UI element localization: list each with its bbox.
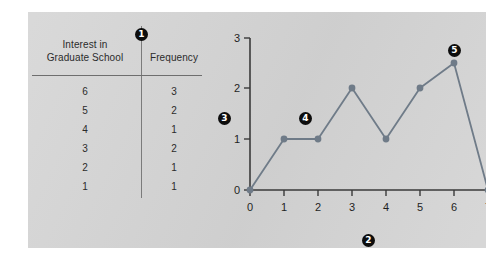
table-row: 6 3	[28, 82, 206, 101]
cell-frequency: 2	[144, 101, 204, 120]
data-point	[485, 187, 486, 194]
x-tick-label: 5	[417, 201, 423, 213]
y-tick-label: 0	[234, 184, 240, 196]
data-line	[250, 63, 486, 190]
table-row: 2 1	[28, 158, 206, 177]
callout-marker-4: 4	[299, 112, 312, 125]
data-point	[247, 187, 254, 194]
callout-marker-5: 5	[448, 44, 461, 57]
table-row: 3 2	[28, 139, 206, 158]
chart-axes	[250, 38, 486, 190]
cell-interest: 3	[30, 139, 140, 158]
data-point	[315, 136, 322, 143]
cell-frequency: 1	[144, 158, 204, 177]
figure-panel: Interest in Graduate School Frequency 6 …	[28, 12, 486, 248]
x-axis-tick-marks	[250, 190, 486, 196]
line-chart: 3 2 1 0 0 1 2 3 4 5 6 7	[206, 12, 486, 248]
callout-marker-1: 1	[135, 28, 148, 41]
x-tick-label: 2	[315, 201, 321, 213]
y-tick-label: 1	[234, 133, 240, 145]
table-body: 6 3 5 2 4 1 3 2 2 1 1 1	[28, 82, 206, 196]
x-axis-tick-labels: 0 1 2 3 4 5 6 7	[247, 201, 486, 213]
table-row: 1 1	[28, 177, 206, 196]
y-tick-label: 2	[234, 82, 240, 94]
cell-interest: 4	[30, 120, 140, 139]
cell-frequency: 3	[144, 82, 204, 101]
cell-frequency: 1	[144, 177, 204, 196]
frequency-table: Interest in Graduate School Frequency 6 …	[28, 26, 206, 216]
column-header-frequency: Frequency	[144, 51, 204, 64]
cell-interest: 6	[30, 82, 140, 101]
column-header-interest: Interest in Graduate School	[30, 38, 140, 64]
cell-interest: 1	[30, 177, 140, 196]
x-tick-label: 6	[451, 201, 457, 213]
data-point	[349, 85, 356, 92]
data-point-peak	[451, 60, 458, 67]
table-header-rule	[32, 75, 202, 76]
column-header-interest-line2: Graduate School	[30, 51, 140, 64]
callout-marker-3: 3	[218, 112, 231, 125]
column-header-interest-line1: Interest in	[30, 38, 140, 51]
data-point	[281, 136, 288, 143]
cell-frequency: 1	[144, 120, 204, 139]
y-axis-tick-labels: 3 2 1 0	[234, 32, 240, 196]
y-tick-label: 3	[234, 32, 240, 44]
y-axis-tick-marks	[244, 38, 250, 190]
data-point-markers	[247, 60, 486, 194]
chart-svg: 3 2 1 0 0 1 2 3 4 5 6 7	[206, 12, 486, 248]
data-point	[417, 85, 424, 92]
table-row: 5 2	[28, 101, 206, 120]
cell-interest: 2	[30, 158, 140, 177]
x-tick-label: 4	[383, 201, 389, 213]
cell-interest: 5	[30, 101, 140, 120]
x-tick-label: 7	[485, 201, 486, 213]
data-point	[383, 136, 390, 143]
cell-frequency: 2	[144, 139, 204, 158]
x-tick-label: 1	[281, 201, 287, 213]
table-row: 4 1	[28, 120, 206, 139]
callout-marker-2: 2	[362, 234, 375, 247]
x-tick-label: 3	[349, 201, 355, 213]
table-header-row: Interest in Graduate School Frequency	[28, 38, 206, 72]
x-tick-label: 0	[247, 201, 253, 213]
